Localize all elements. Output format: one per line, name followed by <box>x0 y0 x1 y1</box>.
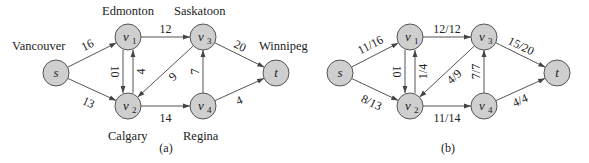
edge-label: 4 <box>134 69 148 75</box>
edge-s-v2: 8/13 <box>352 79 398 114</box>
node-label: t <box>274 65 278 80</box>
node-s: s <box>43 60 69 86</box>
edge-s-v2: 13 <box>68 78 116 111</box>
edge-label: 16 <box>79 36 96 54</box>
node-label: v <box>198 29 204 44</box>
node-label: s <box>53 65 58 80</box>
panel-caption: (b) <box>441 141 455 155</box>
node-label: v <box>405 98 411 113</box>
edge-label: 12/12 <box>433 22 460 36</box>
node-subscript: 4 <box>488 105 493 115</box>
edge-v1-v2: 10 <box>390 50 405 93</box>
node-v4: v4 <box>190 93 216 119</box>
edge-label: 7/7 <box>469 64 483 79</box>
edge-v2-v1: 1/4 <box>415 50 430 93</box>
city-label: Vancouver <box>12 39 66 53</box>
node-v3: v3 <box>190 24 216 50</box>
node-label: v <box>123 29 129 44</box>
panel-a-flow-network: 1613104129147204sVancouverv1Edmontonv2Ca… <box>12 4 309 155</box>
city-label: Saskatoon <box>174 4 226 18</box>
edge-v1-v3: 12 <box>141 22 190 37</box>
node-v2: v2 <box>115 93 141 119</box>
panel-caption: (a) <box>159 141 172 155</box>
node-v3: v3 <box>471 24 497 50</box>
node-label: v <box>405 29 411 44</box>
node-subscript: 1 <box>414 36 419 46</box>
city-label: Regina <box>183 129 219 143</box>
edge-label: 10 <box>390 66 404 78</box>
city-label: Winnipeg <box>259 39 309 53</box>
node-subscript: 3 <box>207 36 212 46</box>
edge-label: 4/9 <box>444 66 465 87</box>
node-v1: v1 <box>397 24 423 50</box>
edge-v4-v3: 7 <box>188 50 203 93</box>
node-label: v <box>479 98 485 113</box>
edge-label: 1/4 <box>416 64 430 79</box>
edge-v2-v4: 14 <box>141 106 190 125</box>
node-subscript: 2 <box>414 105 419 115</box>
edge-label: 15/20 <box>506 34 537 59</box>
edge-label: 14 <box>160 111 172 125</box>
edge-v1-v3: 12/12 <box>423 22 471 37</box>
edge-label: 4/4 <box>510 91 530 110</box>
edge-v3-t: 15/20 <box>496 34 546 68</box>
edge-label: 4 <box>233 93 244 108</box>
edge-label: 7 <box>188 69 202 75</box>
node-subscript: 3 <box>488 36 493 46</box>
edge-label: 11/16 <box>355 33 385 58</box>
node-t: t <box>263 60 289 86</box>
node-subscript: 2 <box>132 105 137 115</box>
edge-label: 11/14 <box>434 111 461 125</box>
edge-label: 13 <box>80 94 97 112</box>
edge-v2-v4: 11/14 <box>423 106 471 125</box>
city-label: Edmonton <box>102 4 155 18</box>
city-label: Calgary <box>108 129 148 143</box>
node-label: v <box>123 98 129 113</box>
node-v2: v2 <box>397 93 423 119</box>
edge-s-v1: 11/16 <box>352 33 399 68</box>
edge-v4-t: 4/4 <box>496 78 545 110</box>
edge-v3-t: 20 <box>215 37 265 67</box>
node-v1: v1 <box>115 24 141 50</box>
node-subscript: 1 <box>132 36 137 46</box>
panel-b-flow-network: 11/168/13101/412/124/911/147/715/204/4sv… <box>327 22 570 155</box>
flow-network-diagram: 1613104129147204sVancouverv1Edmontonv2Ca… <box>0 0 589 163</box>
edge-label: 8/13 <box>359 91 384 113</box>
edge-label: 12 <box>160 22 172 36</box>
edge-v4-t: 4 <box>215 78 264 108</box>
edge-v1-v2: 10 <box>108 50 123 93</box>
node-label: s <box>337 65 342 80</box>
node-t: t <box>544 60 570 86</box>
node-subscript: 4 <box>207 105 212 115</box>
edge-v2-v1: 4 <box>133 50 148 93</box>
node-label: t <box>555 65 559 80</box>
node-v4: v4 <box>471 93 497 119</box>
edge-s-v1: 16 <box>68 36 117 67</box>
node-label: v <box>479 29 485 44</box>
node-label: v <box>198 98 204 113</box>
edge-v4-v3: 7/7 <box>469 50 484 93</box>
edge-label: 9 <box>166 69 180 83</box>
edge-label: 10 <box>108 66 122 78</box>
node-s: s <box>327 60 353 86</box>
